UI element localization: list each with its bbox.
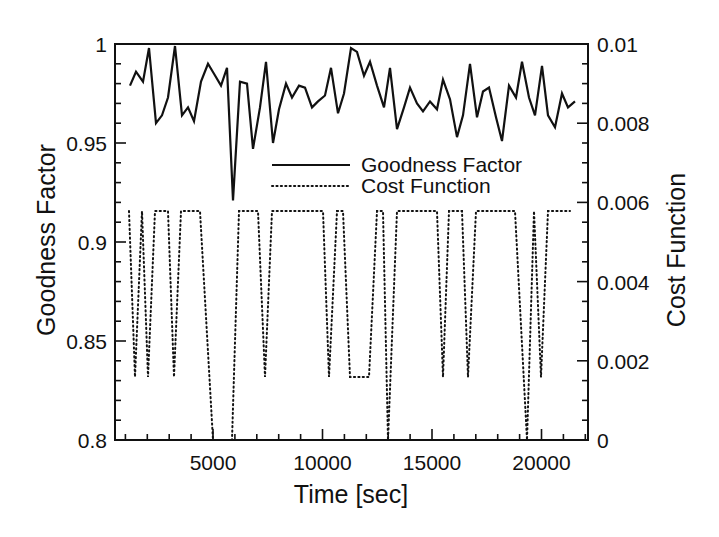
y-axis-tick-labels: 0.80.850.90.951 — [66, 33, 107, 452]
legend-label-goodness-factor: Goodness Factor — [361, 153, 522, 176]
legend: Goodness Factor Cost Function — [272, 153, 522, 197]
x-tick-label: 15000 — [403, 451, 461, 474]
goodness-factor-line — [130, 46, 575, 200]
y-tick-label: 0.9 — [78, 231, 107, 254]
y-axis-title: Goodness Factor — [32, 144, 60, 336]
y-tick-label: 0.95 — [66, 132, 107, 155]
legend-label-cost-function: Cost Function — [361, 174, 491, 197]
y2-tick-label: 0.004 — [597, 271, 650, 294]
major-ticks — [115, 44, 588, 440]
y2-tick-label: 0.006 — [597, 191, 650, 214]
y2-axis-tick-labels: 00.0020.0040.0060.0080.01 — [597, 33, 650, 452]
x-tick-label: 10000 — [293, 451, 351, 474]
y-tick-label: 1 — [95, 33, 107, 56]
chart-canvas: 5000100001500020000 0.80.850.90.951 00.0… — [0, 0, 719, 537]
y-tick-label: 0.8 — [78, 429, 107, 452]
x-tick-label: 5000 — [190, 451, 237, 474]
y2-tick-label: 0.008 — [597, 112, 650, 135]
y2-tick-label: 0 — [597, 429, 609, 452]
x-tick-label: 20000 — [512, 451, 570, 474]
cost-function-line — [129, 211, 570, 440]
y2-axis-title: Cost Function — [662, 173, 690, 327]
x-axis-tick-labels: 5000100001500020000 — [190, 451, 571, 474]
y2-tick-label: 0.01 — [597, 33, 638, 56]
y-tick-label: 0.85 — [66, 330, 107, 353]
x-axis-title: Time [sec] — [294, 480, 408, 508]
minor-ticks — [115, 64, 588, 440]
plot-frame — [115, 44, 588, 440]
y2-tick-label: 0.002 — [597, 350, 650, 373]
